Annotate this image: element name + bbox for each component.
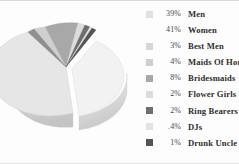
legend-swatch-bridesmaids	[146, 75, 153, 82]
legend-item-flower-girls[interactable]: 2% Flower Girls	[144, 86, 239, 102]
legend-percent-ring-bearers: 2%	[157, 103, 181, 119]
legend-percent-men: 39%	[157, 6, 181, 22]
legend-percent-djs: .4%	[157, 119, 181, 135]
legend-item-women[interactable]: 41% Women	[144, 22, 239, 38]
pie-3d-svg	[0, 1, 140, 163]
legend-item-men[interactable]: 39% Men	[144, 6, 239, 22]
legend-swatch-maids-of-honor	[146, 59, 153, 66]
legend-swatch-best-men	[146, 43, 153, 50]
legend-label-bridesmaids: Bridesmaids	[188, 70, 236, 86]
legend-item-best-men[interactable]: 3% Best Men	[144, 38, 239, 54]
pie-slice-women	[72, 41, 127, 130]
legend-percent-flower-girls: 2%	[157, 86, 181, 102]
legend-item-djs[interactable]: .4% DJs	[144, 119, 239, 135]
legend-percent-women: 41%	[157, 22, 181, 38]
legend-percent-bridesmaids: 8%	[157, 70, 181, 86]
legend-swatch-ring-bearers	[146, 107, 153, 114]
pie-chart-figure: 39% Men 41% Women 3% Best Men 4% Maids O…	[0, 0, 239, 164]
legend-swatch-flower-girls	[146, 91, 153, 98]
legend-label-drunk-uncle: Drunk Uncle	[188, 135, 237, 151]
pie-chart-plot-area	[0, 1, 140, 163]
legend-label-men: Men	[188, 6, 205, 22]
legend-swatch-drunk-uncle	[146, 139, 153, 146]
chart-legend: 39% Men 41% Women 3% Best Men 4% Maids O…	[140, 1, 239, 163]
legend-swatch-djs	[146, 123, 153, 130]
legend-item-maids-of-honor[interactable]: 4% Maids Of Honor	[144, 54, 239, 70]
legend-item-ring-bearers[interactable]: 2% Ring Bearers	[144, 103, 239, 119]
legend-label-ring-bearers: Ring Bearers	[188, 103, 238, 119]
pie-3d-stage	[0, 1, 140, 163]
legend-label-best-men: Best Men	[188, 38, 224, 54]
legend-item-bridesmaids[interactable]: 8% Bridesmaids	[144, 70, 239, 86]
legend-item-drunk-uncle[interactable]: 1% Drunk Uncle	[144, 135, 239, 151]
legend-swatch-men	[146, 11, 153, 18]
legend-label-djs: DJs	[188, 119, 202, 135]
legend-swatch-women	[146, 27, 153, 34]
legend-label-flower-girls: Flower Girls	[188, 86, 236, 102]
legend-label-women: Women	[188, 22, 217, 38]
legend-percent-drunk-uncle: 1%	[157, 135, 181, 151]
legend-percent-best-men: 3%	[157, 38, 181, 54]
legend-percent-maids-of-honor: 4%	[157, 54, 181, 70]
legend-label-maids-of-honor: Maids Of Honor	[188, 54, 239, 70]
